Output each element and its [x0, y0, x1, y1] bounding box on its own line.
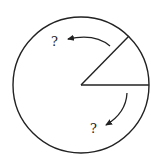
circle-diagram: ? ?	[0, 0, 151, 157]
label-upper: ?	[51, 34, 58, 49]
radius-diagonal	[81, 36, 129, 85]
label-lower: ?	[90, 121, 97, 136]
arrow-lower-icon	[106, 93, 127, 125]
arrow-upper-icon	[68, 37, 110, 46]
